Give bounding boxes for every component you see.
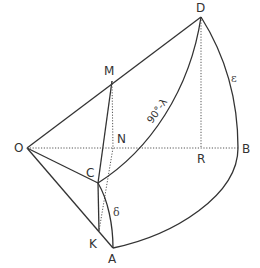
label-D: D [196,1,205,15]
label-K: K [89,237,98,251]
label-epsilon: ε [231,72,237,85]
label-B: B [242,142,250,156]
label-C: C [86,166,94,180]
label-N: N [117,132,126,146]
label-90-minus-lambda: 90°-λ [145,96,170,125]
diagram-canvas: O D M N R B C K A 90°-λ δ ε [0,0,260,268]
dotted-M-N [112,81,113,148]
label-R: R [197,152,205,166]
label-M: M [104,64,114,78]
label-A: A [108,252,117,266]
line-O-D [27,17,201,148]
arc-B-A [113,148,238,248]
label-delta: δ [113,206,120,219]
label-O: O [14,141,23,155]
line-C-K [98,183,99,231]
arc-D-C-90-minus-lambda [98,17,201,183]
